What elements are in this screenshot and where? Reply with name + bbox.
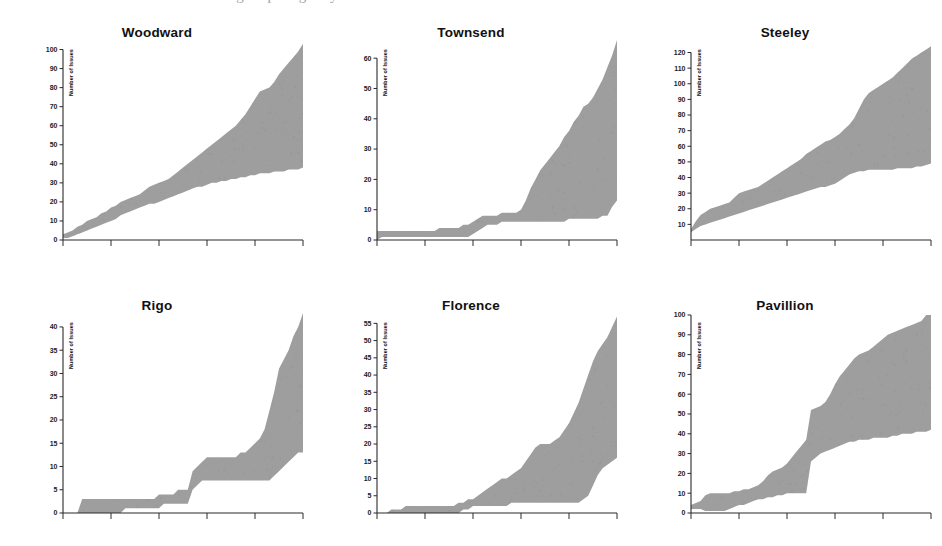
svg-text:20: 20	[364, 440, 372, 447]
svg-text:35: 35	[50, 347, 58, 354]
svg-text:50: 50	[678, 410, 686, 417]
svg-text:Number of Issues: Number of Issues	[68, 322, 74, 369]
svg-text:25: 25	[50, 393, 58, 400]
chart-panel-florence: Florence 0510152025303540455055Number of…	[314, 273, 628, 546]
svg-text:40: 40	[678, 430, 686, 437]
svg-text:0: 0	[368, 509, 372, 516]
svg-text:10: 10	[50, 463, 58, 470]
svg-text:0: 0	[368, 236, 372, 243]
svg-text:70: 70	[678, 127, 686, 134]
svg-text:60: 60	[678, 391, 686, 398]
svg-text:20: 20	[678, 470, 686, 477]
svg-text:Number of Issues: Number of Issues	[696, 322, 702, 369]
svg-text:40: 40	[364, 115, 372, 122]
svg-text:15: 15	[50, 440, 58, 447]
svg-text:25: 25	[364, 423, 372, 430]
svg-text:110: 110	[674, 65, 685, 72]
chart-panel-rigo: Rigo 0510152025303540Number of Issues	[0, 273, 314, 546]
svg-text:10: 10	[678, 221, 686, 228]
svg-text:35: 35	[364, 389, 372, 396]
svg-text:30: 30	[50, 179, 58, 186]
svg-text:0: 0	[682, 509, 686, 516]
svg-text:90: 90	[678, 96, 686, 103]
svg-text:30: 30	[678, 190, 686, 197]
chart-plot-florence: 0510152025303540455055Number of Issues	[314, 273, 628, 546]
figure-container: u g p g y Woodward 010203040506070809010…	[0, 0, 942, 546]
svg-text:90: 90	[678, 331, 686, 338]
svg-text:70: 70	[50, 103, 58, 110]
svg-text:Number of Issues: Number of Issues	[68, 49, 74, 96]
svg-text:10: 10	[364, 475, 372, 482]
svg-text:80: 80	[678, 351, 686, 358]
svg-text:5: 5	[54, 486, 58, 493]
svg-text:90: 90	[50, 65, 58, 72]
svg-text:Number of Issues: Number of Issues	[382, 49, 388, 96]
svg-text:20: 20	[364, 176, 372, 183]
svg-text:40: 40	[50, 323, 58, 330]
chart-plot-woodward: 0102030405060708090100Number of Issues	[0, 0, 314, 273]
svg-text:5: 5	[368, 492, 372, 499]
chart-plot-rigo: 0510152025303540Number of Issues	[0, 273, 314, 546]
svg-text:15: 15	[364, 458, 372, 465]
svg-text:Number of Issues: Number of Issues	[696, 49, 702, 96]
svg-text:80: 80	[50, 84, 58, 91]
svg-text:120: 120	[674, 49, 686, 56]
svg-text:30: 30	[364, 406, 372, 413]
svg-text:100: 100	[46, 46, 58, 53]
svg-text:50: 50	[50, 141, 58, 148]
chart-panel-townsend: Townsend 0102030405060Number of Issues	[314, 0, 628, 273]
svg-text:60: 60	[50, 122, 58, 129]
svg-text:0: 0	[54, 236, 58, 243]
svg-text:60: 60	[678, 143, 686, 150]
svg-text:60: 60	[364, 55, 372, 62]
svg-text:100: 100	[674, 80, 686, 87]
svg-text:20: 20	[50, 198, 58, 205]
svg-text:40: 40	[364, 371, 372, 378]
svg-text:20: 20	[50, 416, 58, 423]
svg-text:30: 30	[364, 145, 372, 152]
svg-text:20: 20	[678, 205, 686, 212]
svg-text:50: 50	[678, 158, 686, 165]
svg-text:10: 10	[364, 206, 372, 213]
chart-panel-steeley: Steeley 102030405060708090100110120Numbe…	[628, 0, 942, 273]
svg-text:70: 70	[678, 371, 686, 378]
svg-text:40: 40	[50, 160, 58, 167]
chart-plot-steeley: 102030405060708090100110120Number of Iss…	[628, 0, 942, 273]
chart-panel-woodward: Woodward 0102030405060708090100Number of…	[0, 0, 314, 273]
svg-text:55: 55	[364, 320, 372, 327]
svg-text:30: 30	[678, 450, 686, 457]
chart-plot-townsend: 0102030405060Number of Issues	[314, 0, 628, 273]
svg-text:Number of Issues: Number of Issues	[382, 322, 388, 369]
svg-text:50: 50	[364, 85, 372, 92]
svg-text:45: 45	[364, 354, 372, 361]
svg-text:10: 10	[50, 217, 58, 224]
svg-text:50: 50	[364, 337, 372, 344]
svg-text:0: 0	[54, 509, 58, 516]
chart-panel-pavillion: Pavillion 0102030405060708090100Number o…	[628, 273, 942, 546]
chart-plot-pavillion: 0102030405060708090100Number of Issues	[628, 273, 942, 546]
chart-panel-grid: Woodward 0102030405060708090100Number of…	[0, 0, 942, 546]
svg-text:10: 10	[678, 490, 686, 497]
svg-text:30: 30	[50, 370, 58, 377]
svg-text:40: 40	[678, 174, 686, 181]
svg-text:80: 80	[678, 111, 686, 118]
svg-text:100: 100	[674, 311, 686, 318]
